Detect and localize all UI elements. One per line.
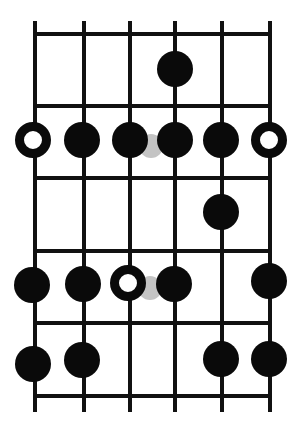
scale-note-icon bbox=[203, 341, 239, 377]
scale-note-icon bbox=[64, 122, 100, 158]
scale-note-icon bbox=[156, 266, 192, 302]
scale-note-icon bbox=[157, 122, 193, 158]
fretboard-diagram bbox=[0, 0, 305, 430]
scale-note-icon bbox=[251, 341, 287, 377]
scale-note-icon bbox=[15, 346, 51, 382]
scale-note-icon bbox=[203, 122, 239, 158]
scale-note-icon bbox=[251, 263, 287, 299]
scale-note-icon bbox=[65, 266, 101, 302]
root-note-icon bbox=[20, 127, 47, 154]
scale-note-icon bbox=[203, 194, 239, 230]
root-note-icon bbox=[256, 127, 283, 154]
scale-note-icon bbox=[112, 122, 148, 158]
scale-note-icon bbox=[157, 51, 193, 87]
scale-note-icon bbox=[64, 342, 100, 378]
scale-note-icon bbox=[14, 267, 50, 303]
root-note-icon bbox=[115, 270, 142, 297]
